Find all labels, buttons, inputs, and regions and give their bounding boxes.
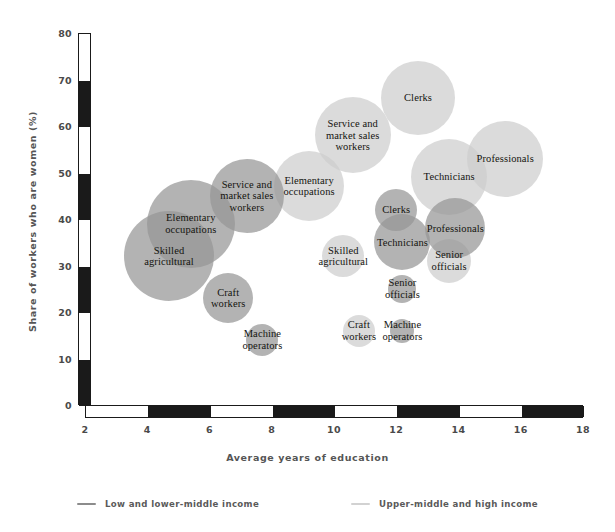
x-tick-label: 12 bbox=[383, 424, 409, 435]
bubble[interactable] bbox=[246, 324, 278, 356]
y-tick-label: 20 bbox=[46, 307, 72, 318]
bubble[interactable] bbox=[374, 214, 430, 270]
x-axis bbox=[85, 405, 583, 418]
y-axis-title: Share of workers who are women (%) bbox=[27, 92, 38, 352]
bubble[interactable] bbox=[203, 273, 253, 323]
x-tick-label: 2 bbox=[72, 424, 98, 435]
x-tick-label: 14 bbox=[446, 424, 472, 435]
bubble[interactable] bbox=[322, 235, 364, 277]
x-tick-label: 18 bbox=[570, 424, 596, 435]
x-axis-band bbox=[273, 406, 335, 417]
bubble[interactable] bbox=[388, 275, 416, 303]
legend-item[interactable]: Low and lower-middle income bbox=[77, 499, 259, 509]
y-tick-label: 80 bbox=[46, 28, 72, 39]
bubble[interactable] bbox=[210, 159, 284, 233]
legend-label: Low and lower-middle income bbox=[105, 499, 259, 509]
x-axis-band bbox=[397, 406, 459, 417]
legend-swatch-icon bbox=[351, 503, 370, 505]
chart-legend: Low and lower-middle incomeUpper-middle … bbox=[0, 492, 615, 516]
bubble[interactable] bbox=[343, 315, 375, 347]
bubble[interactable] bbox=[390, 319, 414, 343]
y-tick-label: 50 bbox=[46, 168, 72, 179]
x-axis-title: Average years of education bbox=[0, 452, 615, 463]
bubble[interactable] bbox=[467, 121, 543, 197]
y-axis-band bbox=[79, 267, 90, 314]
bubble[interactable] bbox=[425, 198, 485, 258]
x-axis-band bbox=[522, 406, 584, 417]
legend-item[interactable]: Upper-middle and high income bbox=[351, 499, 538, 509]
y-axis bbox=[78, 33, 91, 405]
y-axis-band bbox=[79, 360, 90, 407]
y-tick-label: 40 bbox=[46, 214, 72, 225]
y-axis-band bbox=[79, 174, 90, 221]
legend-swatch-icon bbox=[77, 503, 96, 505]
plot-area: 80706050403020100 24681012141618 Share o… bbox=[0, 0, 615, 532]
x-tick-label: 6 bbox=[197, 424, 223, 435]
x-tick-label: 10 bbox=[321, 424, 347, 435]
x-axis-band bbox=[148, 406, 210, 417]
y-axis-band bbox=[79, 81, 90, 128]
bubble[interactable] bbox=[381, 61, 455, 135]
y-tick-label: 30 bbox=[46, 261, 72, 272]
bubble[interactable] bbox=[315, 97, 391, 173]
bubble-chart: 80706050403020100 24681012141618 Share o… bbox=[0, 0, 615, 532]
y-tick-label: 60 bbox=[46, 121, 72, 132]
legend-label: Upper-middle and high income bbox=[379, 499, 538, 509]
x-tick-label: 8 bbox=[259, 424, 285, 435]
x-tick-label: 4 bbox=[134, 424, 160, 435]
y-tick-label: 0 bbox=[46, 400, 72, 411]
x-tick-label: 16 bbox=[508, 424, 534, 435]
y-tick-label: 70 bbox=[46, 75, 72, 86]
y-tick-label: 10 bbox=[46, 354, 72, 365]
